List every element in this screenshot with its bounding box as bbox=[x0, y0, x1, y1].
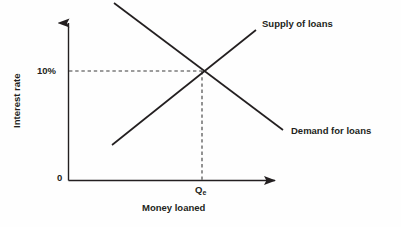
x-axis-tick-label-equilibrium-quantity: Qe bbox=[195, 185, 206, 195]
demand-curve-label: Demand for loans bbox=[291, 126, 371, 136]
supply-curve-line bbox=[112, 30, 256, 145]
axis-origin-label: 0 bbox=[57, 173, 62, 183]
supply-curve-label: Supply of loans bbox=[262, 19, 333, 29]
supply-demand-chart: Interest rate Money loaned 10% 0 Qe Supp… bbox=[0, 0, 401, 227]
demand-curve-line bbox=[114, 3, 283, 130]
x-axis-title: Money loaned bbox=[142, 203, 205, 213]
qe-subscript: e bbox=[202, 189, 206, 196]
y-axis-tick-label-10-percent: 10% bbox=[37, 66, 56, 76]
y-axis-title: Interest rate bbox=[12, 63, 22, 139]
